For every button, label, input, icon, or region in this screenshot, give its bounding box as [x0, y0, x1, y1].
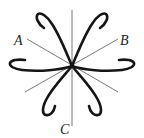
- label-b: B: [120, 33, 129, 48]
- curl-top-left: [37, 13, 72, 66]
- label-a: A: [13, 33, 23, 48]
- curl-left: [10, 60, 72, 71]
- geometry-diagram: A B C: [0, 0, 144, 138]
- curl-right: [72, 60, 134, 71]
- label-c: C: [60, 122, 70, 137]
- curl-top-right: [72, 13, 107, 66]
